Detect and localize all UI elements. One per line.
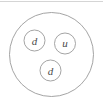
quark-right-label: u (62, 37, 68, 49)
quark-bottom-label: d (48, 65, 54, 77)
outer-particle-circle (10, 13, 94, 97)
quark-composition-figure: d u d (0, 0, 103, 103)
quark-left: d (24, 30, 45, 51)
quark-left-label: d (32, 35, 38, 47)
quark-right: u (55, 33, 76, 54)
quark-bottom: d (40, 60, 61, 81)
quark-composition-diagram: d u d (0, 0, 103, 103)
